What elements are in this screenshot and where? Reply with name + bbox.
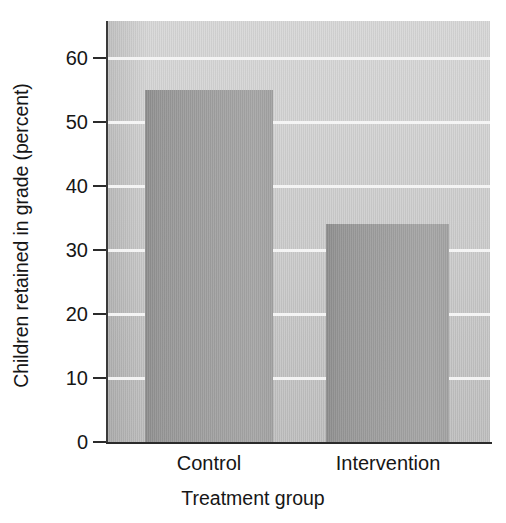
- y-tick-mark-0: [93, 441, 106, 443]
- y-axis-title: Children retained in grade (percent): [10, 83, 33, 387]
- y-tick-mark-60: [93, 57, 106, 59]
- bar-control-fill: [145, 90, 273, 442]
- y-tick-label-30: 30: [42, 240, 88, 260]
- y-tick-label-0: 0: [42, 432, 88, 452]
- y-tick-label-40: 40: [42, 176, 88, 196]
- y-tick-mark-20: [93, 313, 106, 315]
- y-tick-mark-50: [93, 121, 106, 123]
- y-axis-title-container: Children retained in grade (percent): [0, 0, 42, 470]
- y-tick-label-20: 20: [42, 304, 88, 324]
- bar-intervention[interactable]: [326, 224, 449, 442]
- y-axis-tick-labels: 60 50 40 30 20 10 0: [42, 0, 88, 523]
- x-axis-line: [106, 442, 492, 444]
- bar-control[interactable]: [145, 90, 273, 442]
- y-tick-mark-10: [93, 377, 106, 379]
- bar-chart-figure: Children retained in grade (percent) 60 …: [0, 0, 506, 523]
- y-tick-mark-30: [93, 249, 106, 251]
- x-tick-label-intervention: Intervention: [336, 452, 441, 475]
- y-tick-label-60: 60: [42, 48, 88, 68]
- x-axis-title: Treatment group: [0, 487, 506, 510]
- y-tick-label-50: 50: [42, 112, 88, 132]
- x-tick-label-control: Control: [177, 452, 241, 475]
- bar-intervention-fill: [326, 224, 449, 442]
- gridline-60: [108, 57, 490, 60]
- y-tick-mark-40: [93, 185, 106, 187]
- plot-area: [108, 21, 490, 442]
- y-tick-label-10: 10: [42, 368, 88, 388]
